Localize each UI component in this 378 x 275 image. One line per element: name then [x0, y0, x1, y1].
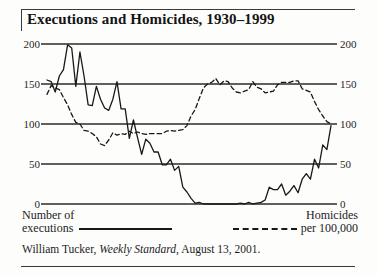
- source-suffix: , August 13, 2001.: [176, 243, 260, 255]
- figure-container: Executions and Homicides, 1930–1999 200 …: [0, 0, 378, 275]
- source-prefix: William Tucker,: [22, 243, 99, 255]
- series-line-homicides: [47, 78, 331, 145]
- y-tick-left-100: 100: [14, 119, 40, 130]
- y-tick-right-50: 50: [340, 159, 370, 170]
- legend-homicides-label-2: per 100,000: [301, 222, 358, 235]
- legend-executions-line2: executions: [22, 222, 172, 235]
- source-publication: Weekly Standard: [99, 243, 176, 255]
- gridlines: [41, 44, 337, 204]
- y-tick-right-150: 150: [340, 79, 370, 90]
- legend-homicides-line2: per 100,000: [233, 222, 358, 235]
- y-tick-right-100: 100: [340, 119, 370, 130]
- legend-executions-label-2: executions: [22, 222, 73, 235]
- source-citation: William Tucker, Weekly Standard, August …: [22, 243, 260, 255]
- bottom-rule: [21, 266, 355, 267]
- y-tick-right-200: 200: [340, 39, 370, 50]
- legend-executions: Number of executions: [22, 209, 172, 235]
- y-tick-left-150: 150: [14, 79, 40, 90]
- legend-dashed-swatch: [233, 228, 297, 230]
- y-tick-left-200: 200: [14, 39, 40, 50]
- y-tick-left-50: 50: [14, 159, 40, 170]
- legend-solid-swatch: [79, 228, 172, 230]
- legend-homicides: Homicides per 100,000: [233, 209, 358, 235]
